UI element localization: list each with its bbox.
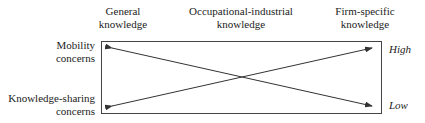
diagram-canvas bbox=[0, 0, 425, 123]
